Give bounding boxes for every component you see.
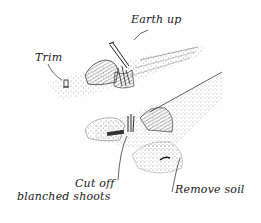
leader-trim [48,64,62,80]
label-earth-up: Earth up [131,14,182,26]
leader-earth-up [134,30,148,40]
label-remove-soil: Remove soil [175,184,245,196]
illustration-canvas: Earth up Trim Cut off blanched shoots Re… [0,0,261,223]
label-cut-off: Cut off [75,178,115,190]
label-trim: Trim [35,52,62,64]
upper-soil-row [48,46,205,100]
label-blanched-shoots: blanched shoots [17,191,111,203]
